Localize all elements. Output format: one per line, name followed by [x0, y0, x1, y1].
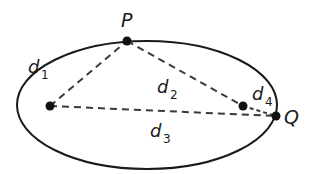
svg-text:2: 2	[170, 88, 178, 102]
svg-text:d: d	[252, 83, 264, 104]
svg-text:4: 4	[265, 95, 273, 109]
svg-text:d: d	[150, 120, 162, 141]
ellipse-curve	[17, 41, 277, 169]
label-p: P	[121, 9, 133, 31]
ellipse-diagram: P Q d 1 d 2 d 3 d 4	[0, 0, 322, 174]
focus-left	[46, 102, 55, 111]
svg-text:d: d	[28, 56, 40, 77]
svg-text:3: 3	[163, 132, 171, 146]
label-d3: d 3	[150, 120, 171, 146]
point-p	[123, 37, 132, 46]
label-d4: d 4	[252, 83, 273, 109]
point-q	[272, 112, 281, 121]
segment-d2	[127, 41, 243, 106]
label-d2: d 2	[157, 76, 178, 102]
svg-text:1: 1	[41, 68, 49, 82]
segment-d1	[50, 41, 127, 106]
label-d1: d 1	[28, 56, 49, 82]
svg-text:d: d	[157, 76, 169, 97]
label-q: Q	[284, 106, 299, 128]
focus-right	[239, 102, 248, 111]
